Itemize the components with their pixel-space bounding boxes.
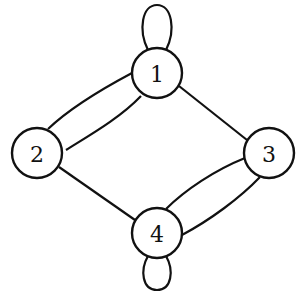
loop-edge-4 xyxy=(143,256,170,290)
loop-edge-1 xyxy=(142,5,171,50)
node-label: 1 xyxy=(150,62,164,87)
node-1: 1 xyxy=(132,48,182,98)
edge-2-4 xyxy=(59,167,135,220)
edge-1-2-b xyxy=(66,96,141,150)
node-4: 4 xyxy=(132,208,182,258)
node-3: 3 xyxy=(244,128,294,178)
node-label: 2 xyxy=(30,142,44,167)
edge-1-3 xyxy=(179,86,247,140)
node-2: 2 xyxy=(12,128,62,178)
node-label: 3 xyxy=(262,142,276,167)
edge-1-2-a xyxy=(48,73,132,129)
graph-diagram: 1 2 3 4 xyxy=(0,0,302,294)
node-label: 4 xyxy=(150,222,164,247)
